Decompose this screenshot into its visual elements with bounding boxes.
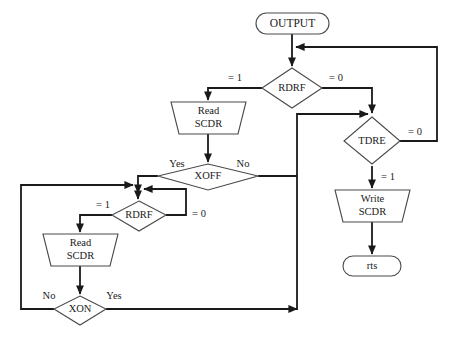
- node-rdrf-bottom: RDRF: [112, 201, 166, 231]
- edge-xoff-yes-to-merge: [138, 176, 158, 193]
- read-scdr-bottom-label-line2: SCDR: [67, 250, 94, 261]
- write-scdr-label-line1: Write: [361, 193, 385, 204]
- read-scdr-bottom-label-line1: Read: [70, 237, 92, 248]
- node-output-terminal: OUTPUT: [256, 13, 329, 34]
- rdrf-bottom-label: RDRF: [125, 209, 153, 220]
- edge-rdrf-top-eq0-to-tdre: [322, 88, 372, 113]
- node-rdrf-top: RDRF: [262, 68, 322, 108]
- edge-label-rdrf-bottom-eq0: = 0: [192, 208, 206, 219]
- edge-rdrf-top-eq1-to-read-scdr: [208, 88, 262, 100]
- node-read-scdr-top: Read SCDR: [171, 102, 246, 134]
- node-tdre: TDRE: [344, 117, 400, 164]
- edge-label-xon-yes: Yes: [106, 290, 121, 301]
- flowchart-diagram: OUTPUT RDRF Read SCDR XOFF RDRF Read SCD…: [0, 0, 452, 341]
- edge-label-rdrf-top-eq1: = 1: [228, 72, 242, 83]
- edge-label-xoff-no: No: [237, 158, 250, 169]
- node-write-scdr: Write SCDR: [335, 190, 410, 222]
- edge-label-rdrf-top-eq0: = 0: [329, 72, 343, 83]
- edge-label-rdrf-bottom-eq1: = 1: [96, 199, 110, 210]
- tdre-label: TDRE: [358, 135, 385, 146]
- read-scdr-top-label-line2: SCDR: [195, 118, 222, 129]
- node-xon: XON: [54, 296, 106, 325]
- xoff-label: XOFF: [195, 170, 222, 181]
- edge-label-tdre-eq0: = 0: [408, 126, 422, 137]
- xon-label: XON: [69, 303, 92, 314]
- flowchart-canvas: OUTPUT RDRF Read SCDR XOFF RDRF Read SCD…: [0, 0, 452, 341]
- edge-label-tdre-eq1: = 1: [381, 171, 395, 182]
- edge-rdrf-bottom-eq1-to-read-scdr: [80, 215, 112, 232]
- edge-label-xoff-yes: Yes: [169, 158, 184, 169]
- write-scdr-label-line2: SCDR: [359, 206, 386, 217]
- edge-xon-yes-to-trunk: [106, 176, 297, 309]
- output-terminal-label: OUTPUT: [270, 17, 315, 29]
- read-scdr-top-label-line1: Read: [198, 105, 220, 116]
- edge-label-xon-no: No: [43, 290, 56, 301]
- node-read-scdr-bottom: Read SCDR: [43, 234, 118, 266]
- rts-terminal-label: rts: [367, 260, 378, 271]
- rdrf-top-label: RDRF: [278, 82, 306, 93]
- node-rts-terminal: rts: [343, 256, 401, 276]
